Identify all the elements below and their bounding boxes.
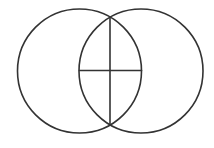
vesica-piscis-diagram	[0, 0, 214, 148]
